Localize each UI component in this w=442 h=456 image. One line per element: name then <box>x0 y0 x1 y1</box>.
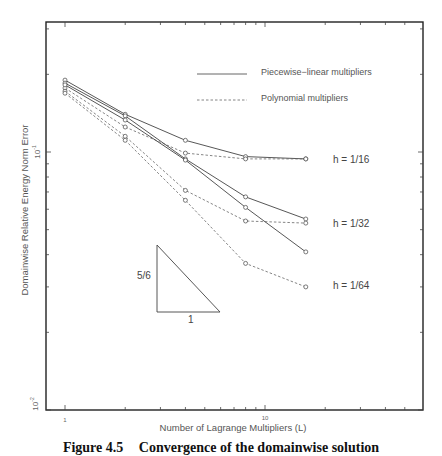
data-point-marker <box>123 114 127 118</box>
label-h64: h = 1/64 <box>333 280 370 291</box>
data-point-marker <box>123 134 127 138</box>
data-point-marker <box>183 138 187 142</box>
data-point-marker <box>304 217 308 221</box>
legend: Piecewise−linear multipliers Polynomial … <box>197 67 372 103</box>
label-h16: h = 1/16 <box>333 154 370 165</box>
data-point-marker <box>244 205 248 209</box>
x-tick-1: 1 <box>63 417 67 423</box>
data-point-marker <box>244 195 248 199</box>
data-point-marker <box>63 83 67 87</box>
data-point-marker <box>183 188 187 192</box>
data-point-marker <box>304 157 308 161</box>
series-line-0 <box>65 80 306 159</box>
data-point-marker <box>63 91 67 95</box>
data-point-marker <box>304 285 308 289</box>
data-point-marker <box>304 221 308 225</box>
y-tick-0.01: 10-2 <box>29 397 40 411</box>
plot-frame <box>46 22 423 410</box>
x-axis-label: Number of Lagrange Multipliers (L) <box>160 422 307 433</box>
data-point-marker <box>183 198 187 202</box>
slope-triangle: 5/6 1 <box>137 245 220 325</box>
caption-text: Convergence of the domainwise solution <box>139 440 379 455</box>
series-line-4 <box>65 85 306 252</box>
data-point-marker <box>123 118 127 122</box>
svg-text:10-2: 10-2 <box>29 397 40 411</box>
slope-run-label: 1 <box>188 314 194 325</box>
y-axis-label: Domainwise Relative Energy Norm Error <box>19 124 30 295</box>
data-point-marker <box>123 125 127 129</box>
y-tick-0.1: 10-1 <box>31 145 42 159</box>
x-tick-10: 10 <box>262 415 269 421</box>
figure-caption: Figure 4.5 Convergence of the domainwise… <box>0 440 442 456</box>
data-point-marker <box>244 219 248 223</box>
caption-number: Figure 4.5 <box>63 440 123 455</box>
svg-text:10-1: 10-1 <box>31 145 42 159</box>
legend-solid-label: Piecewise−linear multipliers <box>261 67 372 77</box>
data-point-marker <box>244 261 248 265</box>
data-point-marker <box>304 250 308 254</box>
data-series <box>63 78 308 289</box>
data-point-marker <box>183 151 187 155</box>
convergence-chart: 1 10 10-1 10-2 Number of Lagrange Multip… <box>0 0 442 440</box>
data-point-marker <box>123 138 127 142</box>
axis-ticks <box>46 22 423 410</box>
data-point-marker <box>244 157 248 161</box>
legend-dashed-label: Polynomial multipliers <box>261 93 349 103</box>
slope-rise-label: 5/6 <box>137 270 151 281</box>
data-point-marker <box>183 158 187 162</box>
label-h32: h = 1/32 <box>333 218 370 229</box>
